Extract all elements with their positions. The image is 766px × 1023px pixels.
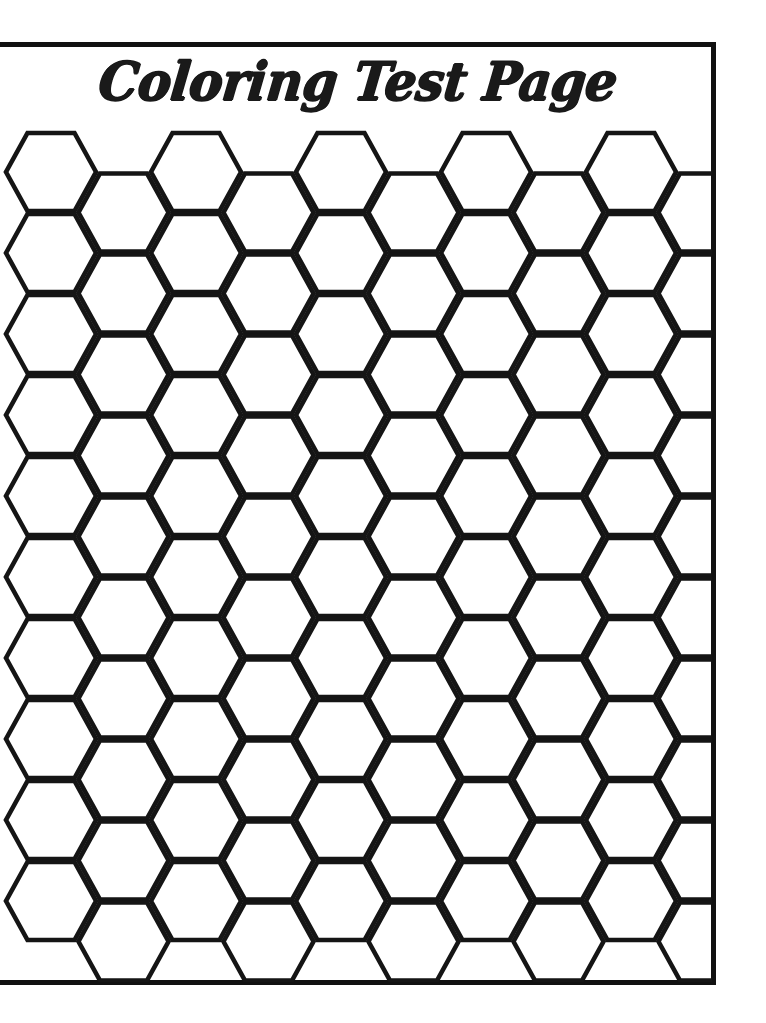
hexagon-cell: [514, 498, 604, 576]
hexagon-cell: [6, 781, 96, 859]
hexagon-cell: [6, 862, 96, 940]
hexagon-cell: [151, 538, 241, 616]
hexagon-cell: [6, 214, 96, 292]
hexagon-cell: [6, 538, 96, 616]
hexagon-cell: [296, 700, 386, 778]
hexagon-cell: [586, 295, 676, 373]
hexagon-cell: [6, 700, 96, 778]
hexagon-cell: [224, 174, 314, 252]
hexagon-cell: [296, 133, 386, 211]
hexagon-cell: [6, 619, 96, 697]
hexagon-cell: [224, 822, 314, 900]
hexagon-cell: [296, 376, 386, 454]
hexagon-cell: [151, 700, 241, 778]
hexagon-cell: [514, 903, 604, 981]
hexagon-cell: [441, 133, 531, 211]
hexagon-cell: [514, 255, 604, 333]
hexagon-cell: [369, 255, 459, 333]
hexagon-cell: [369, 822, 459, 900]
hexagon-cell: [441, 295, 531, 373]
hexagon-cell: [6, 457, 96, 535]
hexagon-cell: [586, 214, 676, 292]
hexagon-cell: [151, 295, 241, 373]
hexagon-cell: [79, 660, 169, 738]
hexagon-cell: [79, 255, 169, 333]
hexagon-cell: [441, 781, 531, 859]
hexagon-cell: [151, 457, 241, 535]
honeycomb-grid: [0, 46, 712, 982]
hexagon-cell: [296, 457, 386, 535]
hexagon-cell: [151, 862, 241, 940]
hexagon-cell: [514, 822, 604, 900]
hexagon-cell: [369, 417, 459, 495]
hexagon-cell: [441, 700, 531, 778]
hexagon-cell: [369, 336, 459, 414]
hexagon-cell: [296, 214, 386, 292]
hexagon-cell: [151, 376, 241, 454]
hexagon-cell: [586, 619, 676, 697]
hexagon-cell: [79, 822, 169, 900]
hexagon-cell: [586, 700, 676, 778]
hexagon-cell: [441, 538, 531, 616]
hexagon-cell: [514, 336, 604, 414]
hexagon-cell: [514, 417, 604, 495]
hexagon-cell: [79, 174, 169, 252]
hexagon-cell: [586, 862, 676, 940]
hexagon-cell: [224, 498, 314, 576]
hexagon-cell: [586, 457, 676, 535]
hexagon-cell: [6, 295, 96, 373]
hexagon-cell: [224, 903, 314, 981]
hexagon-cell: [79, 336, 169, 414]
hexagon-cell: [224, 336, 314, 414]
hexagon-cell: [79, 579, 169, 657]
hexagon-cell: [79, 498, 169, 576]
hexagon-cell: [514, 579, 604, 657]
hexagon-cell: [296, 781, 386, 859]
hexagon-cell: [369, 498, 459, 576]
hexagon-cell: [79, 741, 169, 819]
hexagon-cell: [369, 903, 459, 981]
hexagon-cell: [586, 133, 676, 211]
hexagon-cell: [369, 174, 459, 252]
hexagon-cell: [151, 133, 241, 211]
hexagon-cell: [369, 579, 459, 657]
hexagon-cell: [151, 781, 241, 859]
hexagon-cell: [586, 376, 676, 454]
hexagon-cell: [441, 862, 531, 940]
hexagon-cell: [514, 174, 604, 252]
hexagon-cell: [224, 417, 314, 495]
hexagon-cell: [151, 619, 241, 697]
hexagon-cell: [224, 660, 314, 738]
hexagon-group: [6, 133, 712, 981]
hexagon-cell: [369, 660, 459, 738]
hexagon-cell: [441, 619, 531, 697]
hexagon-cell: [586, 538, 676, 616]
hexagon-cell: [6, 133, 96, 211]
hexagon-cell: [79, 417, 169, 495]
hexagon-cell: [441, 214, 531, 292]
hexagon-cell: [79, 903, 169, 981]
hexagon-cell: [296, 538, 386, 616]
hexagon-cell: [151, 214, 241, 292]
hexagon-cell: [296, 862, 386, 940]
coloring-page: Coloring Test Page: [0, 0, 766, 1023]
hexagon-cell: [224, 741, 314, 819]
hexagon-cell: [224, 255, 314, 333]
hexagon-cell: [224, 579, 314, 657]
hexagon-cell: [514, 741, 604, 819]
hexagon-cell: [6, 376, 96, 454]
hexagon-cell: [441, 457, 531, 535]
hexagon-cell: [514, 660, 604, 738]
hexagon-cell: [296, 619, 386, 697]
hexagon-cell: [586, 781, 676, 859]
hexagon-cell: [296, 295, 386, 373]
hexagon-cell: [441, 376, 531, 454]
honeycomb-svg: [0, 46, 712, 982]
hexagon-cell: [369, 741, 459, 819]
